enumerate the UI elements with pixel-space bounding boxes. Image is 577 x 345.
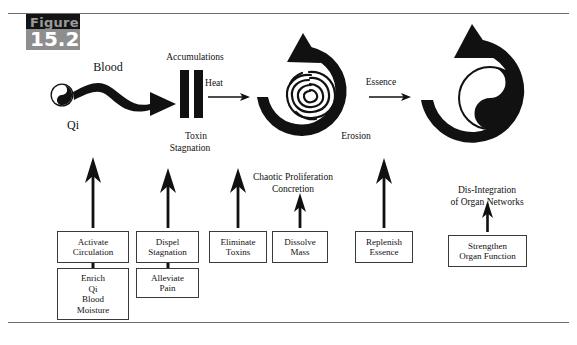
figure-page: Figure 15.2 bbox=[0, 0, 577, 345]
box-dispel-stagnation[interactable]: Dispel Stagnation bbox=[136, 231, 199, 263]
box-line-3: Blood bbox=[77, 294, 110, 305]
flow-label-erosion: Erosion bbox=[341, 131, 371, 142]
condition-label-dis-integration: Dis-Integration of Organ Networks bbox=[450, 185, 523, 208]
flow-label-stagnation: Stagnation bbox=[170, 143, 211, 154]
box-strengthen-organ-function[interactable]: Strengthen Organ Function bbox=[448, 235, 527, 267]
flow-label-accumulations: Accumulations bbox=[166, 52, 224, 63]
box-line-1: Dispel bbox=[148, 237, 187, 248]
condition-line-1: Dis-Integration bbox=[450, 185, 523, 197]
arrow-dissolve-mass bbox=[294, 193, 306, 228]
flow-label-qi: Qi bbox=[67, 120, 79, 131]
box-line-2: Pain bbox=[151, 283, 184, 294]
condition-label-chaotic-proliferation: Chaotic Proliferation Concretion bbox=[253, 172, 333, 195]
arrow-activate-circulation bbox=[85, 157, 101, 228]
box-line-2: Circulation bbox=[73, 247, 114, 258]
blood-flow-arrow bbox=[73, 83, 176, 116]
box-activate-circulation[interactable]: Activate Circulation bbox=[57, 231, 129, 263]
box-line-1: Alleviate bbox=[151, 273, 184, 284]
box-enrich-qi-blood-moisture[interactable]: Enrich Qi Blood Moisture bbox=[57, 268, 129, 320]
flow-label-essence: Essence bbox=[366, 77, 397, 88]
accumulation-bars-icon bbox=[180, 70, 203, 118]
box-dissolve-mass[interactable]: Dissolve Mass bbox=[272, 231, 328, 263]
labyrinth-spiral-icon bbox=[287, 72, 337, 119]
box-line-2: Toxins bbox=[221, 247, 256, 258]
box-line-1: Dissolve bbox=[284, 237, 316, 248]
flow-label-toxin: Toxin bbox=[185, 131, 207, 142]
box-line-2: Qi bbox=[77, 284, 110, 295]
condition-line-2: of Organ Networks bbox=[450, 197, 523, 209]
box-line-2: Organ Function bbox=[459, 251, 516, 262]
essence-arrow bbox=[369, 93, 411, 101]
condition-line-2: Concretion bbox=[253, 184, 333, 196]
heat-arrow bbox=[208, 93, 250, 101]
box-line-1: Activate bbox=[73, 237, 114, 248]
organ-yin-yang-icon bbox=[459, 67, 521, 129]
box-line-1: Eliminate bbox=[221, 237, 256, 248]
condition-line-1: Chaotic Proliferation bbox=[253, 172, 333, 184]
arrow-replenish-essence bbox=[376, 158, 392, 228]
box-replenish-essence[interactable]: Replenish Essence bbox=[355, 231, 413, 263]
qi-yin-yang-icon bbox=[51, 84, 74, 107]
flow-label-heat: Heat bbox=[205, 78, 223, 89]
box-line-1: Strengthen bbox=[459, 241, 516, 252]
box-line-2: Mass bbox=[284, 247, 316, 258]
box-line-4: Moisture bbox=[77, 305, 110, 316]
box-line-1: Replenish bbox=[366, 237, 402, 248]
box-line-2: Essence bbox=[366, 247, 402, 258]
box-line-1: Enrich bbox=[77, 273, 110, 284]
box-line-2: Stagnation bbox=[148, 247, 187, 258]
arrow-eliminate-toxins bbox=[230, 168, 246, 228]
arrow-dispel-stagnation bbox=[160, 168, 176, 228]
box-eliminate-toxins[interactable]: Eliminate Toxins bbox=[209, 231, 267, 263]
box-alleviate-pain[interactable]: Alleviate Pain bbox=[136, 268, 199, 298]
flow-label-blood: Blood bbox=[93, 62, 122, 73]
